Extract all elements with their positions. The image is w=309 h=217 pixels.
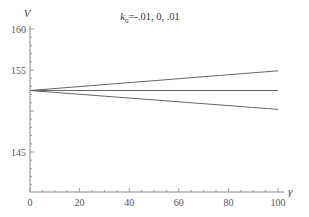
- x-tick-label: 0: [28, 197, 33, 208]
- x-tick-label: 20: [75, 197, 85, 208]
- title-values: =-.01, 0, .01: [128, 11, 179, 22]
- chart-title: k0=-.01, 0, .01: [120, 11, 180, 25]
- x-tick-label: 60: [174, 197, 184, 208]
- y-tick-label: 145: [11, 147, 26, 158]
- axes: 020406080100145155160: [11, 24, 286, 209]
- series-group: [30, 71, 278, 110]
- x-tick-label: 80: [223, 197, 233, 208]
- x-tick-label: 40: [124, 197, 134, 208]
- chart: 020406080100145155160 k0=-.01, 0, .01 V …: [0, 0, 309, 217]
- y-tick-label: 160: [11, 24, 26, 35]
- y-axis-label: V: [24, 7, 32, 19]
- series-line: [30, 71, 278, 91]
- series-line: [30, 91, 278, 110]
- x-tick-label: 100: [271, 197, 286, 208]
- y-tick-label: 155: [11, 65, 26, 76]
- x-axis-label: γ: [288, 185, 293, 197]
